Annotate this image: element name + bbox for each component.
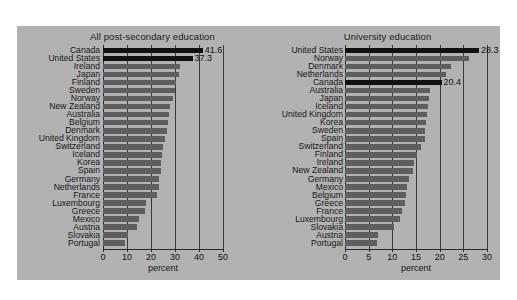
x-axis-title-left: percent — [103, 263, 223, 273]
bar — [103, 184, 159, 190]
bar — [103, 200, 146, 206]
bar-row — [345, 151, 487, 158]
bar: 37.3 — [103, 56, 193, 62]
bar — [103, 192, 157, 198]
x-axis-line-left — [103, 249, 223, 250]
bar — [103, 208, 145, 214]
bar-row — [103, 240, 223, 247]
bar-row — [345, 224, 487, 231]
chart-figure: All post-secondary education CanadaUnite… — [17, 26, 500, 280]
bar — [103, 232, 128, 238]
axis-tick-label: 5 — [366, 252, 371, 262]
bar-row — [103, 87, 223, 94]
bar-row — [345, 208, 487, 215]
bar — [345, 192, 406, 198]
bar-row — [345, 232, 487, 239]
bar-row — [103, 95, 223, 102]
bar-row — [103, 135, 223, 142]
bar — [103, 240, 125, 246]
bar-row: 37.3 — [103, 55, 223, 62]
bar-row — [103, 127, 223, 134]
axis-tick-label: 20 — [435, 252, 445, 262]
bar — [345, 112, 427, 118]
bar-row — [103, 224, 223, 231]
axis-tick-label: 10 — [122, 252, 132, 262]
bar-row: 20.4 — [345, 79, 487, 86]
bar-row — [345, 119, 487, 126]
bar — [103, 104, 170, 110]
bar — [345, 96, 429, 102]
bar — [103, 88, 175, 94]
bar — [345, 208, 402, 214]
bar-row — [103, 103, 223, 110]
bar-rows-left: 41.637.3 — [103, 45, 223, 249]
bar-row — [103, 151, 223, 158]
panel-university-education: University education United StatesNorway… — [258, 26, 499, 280]
bar — [103, 224, 137, 230]
bar — [345, 56, 469, 62]
bar-row — [345, 184, 487, 191]
category-labels-right: United StatesNorwayDenmarkNetherlandsCan… — [260, 45, 343, 249]
bar-row — [103, 71, 223, 78]
bar-row — [103, 176, 223, 183]
bar — [103, 80, 176, 86]
bar: 20.4 — [345, 80, 442, 86]
bar-row — [103, 143, 223, 150]
bar — [345, 224, 394, 230]
x-axis-left: 01020304050 percent — [103, 249, 223, 269]
bar-value-label: 37.3 — [195, 53, 213, 63]
bar — [103, 160, 161, 166]
bar — [345, 136, 425, 142]
axis-tick-label: 50 — [218, 252, 228, 262]
bar — [345, 64, 451, 70]
gridline — [487, 45, 488, 249]
axis-tick-label: 25 — [458, 252, 468, 262]
bar-row — [103, 79, 223, 86]
bar — [103, 128, 167, 134]
bar-row — [345, 135, 487, 142]
bar — [103, 216, 139, 222]
bar — [345, 152, 417, 158]
bar — [103, 136, 165, 142]
bar-row — [345, 216, 487, 223]
bar-row — [345, 167, 487, 174]
bar — [103, 120, 168, 126]
bar — [103, 152, 162, 158]
category-labels-left: CanadaUnited StatesIrelandJapanFinlandSw… — [17, 45, 100, 249]
bar — [345, 144, 421, 150]
bar-row — [345, 159, 487, 166]
bar-row — [103, 119, 223, 126]
bar-row — [103, 159, 223, 166]
bar-row — [345, 95, 487, 102]
bar-row — [345, 55, 487, 62]
x-axis-title-right: percent — [345, 263, 487, 273]
bar — [345, 184, 407, 190]
bar-row — [345, 71, 487, 78]
gridline — [223, 45, 224, 249]
bar-row — [345, 240, 487, 247]
bar — [345, 240, 377, 246]
plot-area-right: 28.320.4 — [345, 45, 487, 249]
bar — [345, 216, 400, 222]
bar — [345, 120, 426, 126]
bar-row — [103, 111, 223, 118]
bar — [345, 128, 425, 134]
axis-tick-label: 0 — [100, 252, 105, 262]
bar-row — [103, 208, 223, 215]
bar-row — [103, 192, 223, 199]
bar — [345, 88, 430, 94]
bar — [103, 96, 173, 102]
panel-title-right: University education — [258, 31, 499, 42]
bar-row — [345, 176, 487, 183]
panel-all-post-secondary: All post-secondary education CanadaUnite… — [17, 26, 258, 280]
axis-tick-label: 30 — [482, 252, 492, 262]
bar-row — [103, 216, 223, 223]
bar-value-label: 20.4 — [444, 77, 462, 87]
bar-row — [345, 63, 487, 70]
axis-tick-label: 30 — [170, 252, 180, 262]
bar-row — [345, 127, 487, 134]
bar: 28.3 — [345, 48, 479, 54]
category-label: Portugal — [260, 240, 343, 247]
bar — [345, 104, 428, 110]
bar — [345, 72, 446, 78]
